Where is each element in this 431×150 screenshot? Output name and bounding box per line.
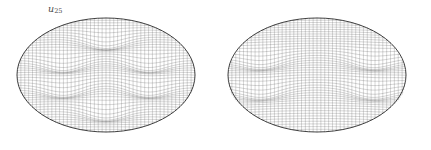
panel-u17: u17: [215, 0, 431, 150]
eigenfunction-label-u25: u25: [48, 4, 62, 15]
surface-plot-u25: [0, 0, 216, 150]
label-subscript-u25: 25: [54, 7, 62, 15]
panel-u25: u25: [0, 0, 216, 150]
surface-plot-u17: [215, 0, 431, 150]
eigenfunction-figure: u25 u17: [0, 0, 431, 150]
